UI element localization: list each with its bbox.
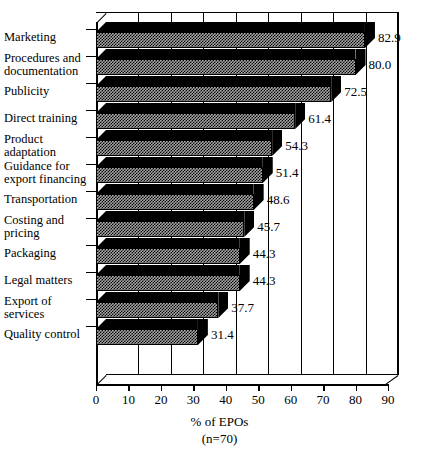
plot-top-edge <box>96 12 399 13</box>
category-label-line: Export of <box>4 295 92 309</box>
value-label: 72.5 <box>344 85 367 98</box>
value-label: 45.7 <box>257 220 280 233</box>
bar-front-face <box>96 275 240 291</box>
value-label: 44.3 <box>253 247 276 260</box>
bar-front-face <box>96 32 365 48</box>
category-label-line: Quality control <box>4 328 92 342</box>
bar <box>96 319 198 335</box>
bar-front-face <box>96 221 244 237</box>
category-label: Guidance forexport financing <box>4 160 92 187</box>
bar-top-face <box>96 76 331 86</box>
x-tick-50 <box>258 384 259 391</box>
category-label: Publicity <box>4 85 92 99</box>
x-tick-label-90: 90 <box>382 393 395 406</box>
bar <box>96 184 254 200</box>
depth-edge-bottom-right <box>384 375 399 386</box>
bar-top-face <box>96 49 356 59</box>
category-label-line: Direct training <box>4 112 92 126</box>
bar <box>96 49 356 65</box>
x-tick-label-30: 30 <box>187 393 200 406</box>
bar-front-face <box>96 329 198 345</box>
y-tick <box>86 245 96 246</box>
category-label: Export ofservices <box>4 295 92 322</box>
category-label: Transportation <box>4 193 92 207</box>
category-label-line: Legal matters <box>4 274 92 288</box>
x-tick-label-10: 10 <box>122 393 135 406</box>
bar <box>96 103 295 119</box>
bar-top-face <box>96 157 263 167</box>
category-label-line: pricing <box>4 227 92 241</box>
category-label-line: services <box>4 308 92 322</box>
bar-chart: MarketingProcedures anddocumentationPubl… <box>0 0 439 461</box>
x-axis-subtitle: (n=70) <box>0 431 439 446</box>
bar <box>96 22 365 38</box>
bar <box>96 157 263 173</box>
x-tick-label-40: 40 <box>219 393 232 406</box>
y-tick <box>86 29 96 30</box>
bar <box>96 265 240 281</box>
bar-top-face <box>96 130 272 140</box>
bar-top-face <box>96 184 254 194</box>
category-label-line: Publicity <box>4 85 92 99</box>
bar-top-face <box>96 103 295 113</box>
bar-front-face <box>96 113 295 129</box>
x-tick-label-80: 80 <box>349 393 362 406</box>
category-label: Packaging <box>4 247 92 261</box>
bar-top-face <box>96 22 365 32</box>
category-label: Quality control <box>4 328 92 342</box>
value-label: 48.6 <box>267 193 290 206</box>
bar-top-face <box>96 265 240 275</box>
bar <box>96 130 272 146</box>
category-label-line: Costing and <box>4 214 92 228</box>
bar-front-face <box>96 167 263 183</box>
bar <box>96 238 240 254</box>
y-tick <box>86 326 96 327</box>
x-tick-90 <box>388 384 389 391</box>
category-label-line: export financing <box>4 173 92 187</box>
x-tick-label-70: 70 <box>317 393 330 406</box>
x-tick-20 <box>161 384 162 391</box>
bar-top-face <box>96 292 218 302</box>
category-label-line: documentation <box>4 65 92 79</box>
bar-top-face <box>96 319 198 329</box>
y-tick <box>86 191 96 192</box>
bar-front-face <box>96 59 356 75</box>
y-tick <box>86 110 96 111</box>
value-label: 44.3 <box>253 274 276 287</box>
category-label: Marketing <box>4 31 92 45</box>
category-label: Productadaptation <box>4 133 92 160</box>
y-tick <box>86 83 96 84</box>
value-label: 31.4 <box>211 328 234 341</box>
category-label-line: Product <box>4 133 92 147</box>
bar-top-face <box>96 211 244 221</box>
bar <box>96 292 218 308</box>
category-label: Procedures anddocumentation <box>4 52 92 79</box>
category-label-line: Marketing <box>4 31 92 45</box>
plot-bottom-edge <box>106 374 399 375</box>
bar-front-face <box>96 86 331 102</box>
x-tick-30 <box>193 384 194 391</box>
x-tick-label-50: 50 <box>252 393 265 406</box>
gridline-80 <box>366 12 367 375</box>
category-label-line: Transportation <box>4 193 92 207</box>
bar-front-face <box>96 248 240 264</box>
value-label: 80.0 <box>369 58 392 71</box>
x-tick-70 <box>323 384 324 391</box>
bar-front-face <box>96 194 254 210</box>
x-axis-line <box>96 384 388 386</box>
value-label: 51.4 <box>276 166 299 179</box>
value-label: 61.4 <box>308 112 331 125</box>
category-label-line: Packaging <box>4 247 92 261</box>
value-label: 82.9 <box>378 31 401 44</box>
category-label: Direct training <box>4 112 92 126</box>
x-tick-40 <box>226 384 227 391</box>
x-tick-label-20: 20 <box>154 393 167 406</box>
y-tick <box>86 272 96 273</box>
category-label-line: Guidance for <box>4 160 92 174</box>
category-label-line: adaptation <box>4 146 92 160</box>
category-label: Costing andpricing <box>4 214 92 241</box>
bar <box>96 76 331 92</box>
x-tick-label-60: 60 <box>284 393 297 406</box>
x-tick-10 <box>128 384 129 391</box>
category-label: Legal matters <box>4 274 92 288</box>
